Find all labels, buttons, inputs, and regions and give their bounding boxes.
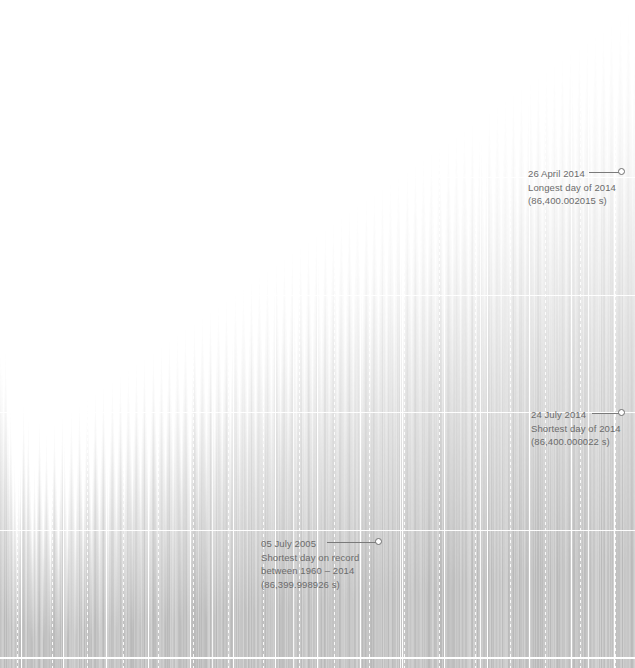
annotation-date: 26 April 2014	[528, 167, 616, 181]
annotation-label: Longest day of 2014	[528, 181, 616, 195]
chart-canvas: 26 April 2014 Longest day of 2014 (86,40…	[0, 0, 635, 668]
annotation-marker-dot	[618, 409, 625, 416]
annotation-value: (86,399.998926 s)	[261, 578, 359, 592]
annotation-label: Shortest day on record	[261, 551, 359, 565]
annotation-leader-line	[327, 542, 376, 543]
annotation-longest-day-2014: 26 April 2014 Longest day of 2014 (86,40…	[528, 167, 616, 208]
annotation-shortest-day-2014: 24 July 2014 Shortest day of 2014 (86,40…	[531, 408, 621, 449]
annotation-marker-dot	[618, 168, 625, 175]
annotation-label-2: between 1960 – 2014	[261, 564, 359, 578]
annotation-value: (86,400.002015 s)	[528, 194, 616, 208]
annotation-date: 05 July 2005	[261, 537, 359, 551]
annotation-label: Shortest day of 2014	[531, 422, 621, 436]
annotation-marker-dot	[375, 538, 382, 545]
annotation-value: (86,400.000022 s)	[531, 435, 621, 449]
annotation-shortest-day-on-record: 05 July 2005 Shortest day on record betw…	[261, 537, 359, 591]
annotation-leader-line	[589, 172, 619, 173]
annotation-leader-line	[592, 413, 619, 414]
annotation-date: 24 July 2014	[531, 408, 621, 422]
